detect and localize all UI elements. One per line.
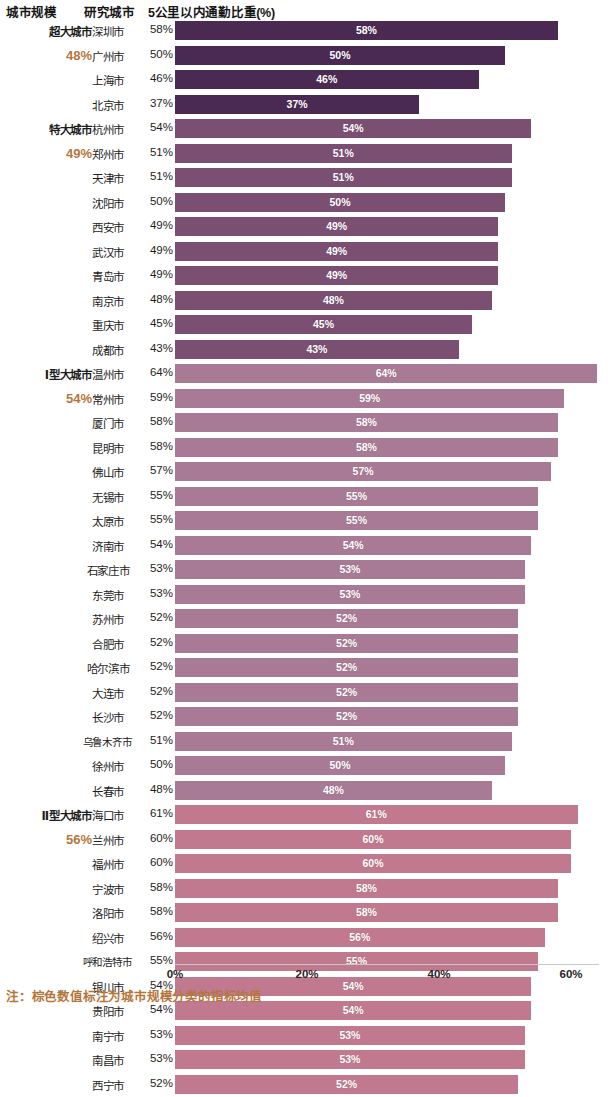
chart-row: 武汉市49%49% (0, 240, 616, 265)
city-name: 福州市 (74, 856, 142, 872)
column-headers: 城市规模 研究城市 5公里以内通勤比重(%) (0, 0, 616, 20)
city-name: 重庆市 (74, 317, 142, 333)
bar-value-label: 59% (175, 392, 564, 404)
bar-track: 58% (175, 438, 605, 457)
bar-track: 52% (175, 634, 605, 653)
bar-track: 57% (175, 462, 605, 481)
bar-value-label: 58% (175, 441, 558, 453)
city-name: 常州市 (74, 391, 142, 407)
chart-row: 54%常州市59%59% (0, 387, 616, 412)
bar-track: 59% (175, 389, 605, 408)
bar-track: 54% (175, 119, 605, 138)
chart-row: 48%广州市50%50% (0, 44, 616, 69)
city-name: 上海市 (74, 72, 142, 88)
bar-value-label: 37% (175, 98, 419, 110)
chart-row: 西宁市52%52% (0, 1073, 616, 1097)
city-value: 64% (143, 366, 173, 378)
chart-row: 长沙市52%52% (0, 705, 616, 730)
city-value: 51% (143, 146, 173, 158)
city-name: 贵阳市 (74, 1003, 142, 1019)
bar-value-label: 60% (175, 833, 571, 845)
city-name: 西宁市 (74, 1077, 142, 1093)
bar-value-label: 57% (175, 465, 551, 477)
city-name: 武汉市 (74, 244, 142, 260)
city-value: 52% (143, 611, 173, 623)
city-name: 大连市 (74, 685, 142, 701)
chart-row: 东莞市53%53% (0, 583, 616, 608)
city-value: 52% (143, 636, 173, 648)
city-value: 55% (143, 489, 173, 501)
city-name: 东莞市 (74, 587, 142, 603)
bar-track: 55% (175, 511, 605, 530)
city-name: 昆明市 (74, 440, 142, 456)
city-name: 杭州市 (74, 121, 142, 137)
chart-row: 洛阳市58%58% (0, 901, 616, 926)
city-name: 青岛市 (74, 268, 142, 284)
chart-row: 苏州市52%52% (0, 607, 616, 632)
city-name: 西安市 (74, 219, 142, 235)
city-value: 59% (143, 391, 173, 403)
city-name: 长春市 (74, 783, 142, 799)
bar-value-label: 50% (175, 759, 505, 771)
city-name: 无锡市 (74, 489, 142, 505)
x-axis-tick: 0% (167, 968, 184, 980)
bar-track: 60% (175, 854, 605, 873)
chart-row: 哈尔滨市52%52% (0, 656, 616, 681)
city-name: 天津市 (74, 170, 142, 186)
chart-row: 56%兰州市60%60% (0, 828, 616, 853)
bar-track: 58% (175, 21, 605, 40)
x-axis: 0%20%40%60% (0, 964, 616, 986)
city-value: 37% (143, 97, 173, 109)
city-value: 53% (143, 587, 173, 599)
bar-track: 52% (175, 1075, 605, 1094)
bar-value-label: 52% (175, 612, 518, 624)
city-value: 48% (143, 293, 173, 305)
bar-track: 50% (175, 756, 605, 775)
city-value: 54% (143, 538, 173, 550)
bar-value-label: 56% (175, 931, 545, 943)
chart-row: 宁波市58%58% (0, 877, 616, 902)
bar-value-label: 53% (175, 1053, 525, 1065)
bar-value-label: 52% (175, 661, 518, 673)
city-value: 52% (143, 1077, 173, 1089)
city-value: 56% (143, 930, 173, 942)
city-value: 49% (143, 268, 173, 280)
bar-track: 53% (175, 1050, 605, 1069)
bar-track: 45% (175, 315, 605, 334)
chart-row: 西安市49%49% (0, 215, 616, 240)
chart-row: Ⅱ型大城市海口市61%61% (0, 803, 616, 828)
bar-track: 58% (175, 879, 605, 898)
city-name: 济南市 (74, 538, 142, 554)
chart-row: 重庆市45%45% (0, 313, 616, 338)
bar-value-label: 53% (175, 563, 525, 575)
city-name: 佛山市 (74, 464, 142, 480)
city-value: 61% (143, 807, 173, 819)
bar-track: 53% (175, 1026, 605, 1045)
chart-row: 南宁市53%53% (0, 1024, 616, 1049)
city-value: 55% (143, 513, 173, 525)
x-axis-tick: 40% (427, 968, 450, 980)
city-name: 北京市 (74, 97, 142, 113)
city-name: 南宁市 (74, 1028, 142, 1044)
bar-value-label: 54% (175, 122, 531, 134)
city-name: 广州市 (74, 48, 142, 64)
bar-value-label: 64% (175, 367, 597, 379)
chart-row: 佛山市57%57% (0, 460, 616, 485)
city-name: 深圳市 (74, 23, 142, 39)
chart-row: 福州市60%60% (0, 852, 616, 877)
chart-row: 北京市37%37% (0, 93, 616, 118)
bar-track: 55% (175, 487, 605, 506)
city-name: 沈阳市 (74, 195, 142, 211)
bar-value-label: 54% (175, 539, 531, 551)
bar-value-label: 43% (175, 343, 459, 355)
city-name: 乌鲁木齐市 (70, 734, 144, 749)
bar-track: 37% (175, 95, 605, 114)
bar-value-label: 51% (175, 147, 512, 159)
chart-row: 石家庄市53%53% (0, 558, 616, 583)
city-value: 50% (143, 48, 173, 60)
bar-value-label: 49% (175, 245, 498, 257)
city-name: 南昌市 (74, 1052, 142, 1068)
chart-row: 徐州市50%50% (0, 754, 616, 779)
chart-row: 昆明市58%58% (0, 436, 616, 461)
